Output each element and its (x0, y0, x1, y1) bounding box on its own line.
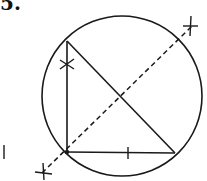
vertex-dot (65, 150, 69, 154)
cross-tick-bottom-2 (43, 163, 44, 180)
triangle-leg-horizontal (67, 152, 175, 153)
dashed-bisector (42, 26, 192, 173)
geometry-diagram (0, 0, 207, 181)
cross-tick-top-2 (190, 16, 191, 36)
tick-marks (4, 16, 198, 180)
